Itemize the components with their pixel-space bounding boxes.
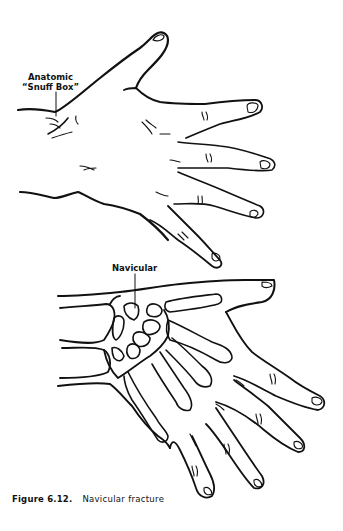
figure-caption-text: Navicular fracture — [82, 494, 164, 504]
dorsal-hand-drawing — [18, 32, 275, 267]
figure-number: Figure 6.12. — [12, 494, 72, 504]
navicular-label: Navicular — [112, 263, 157, 273]
skeleton-hand-drawing — [58, 274, 324, 498]
anatomic-snuff-box-label: Anatomic “Snuff Box” — [22, 72, 79, 92]
snuff-box-label-line1: Anatomic — [22, 72, 79, 82]
snuff-box-label-line2: “Snuff Box” — [22, 82, 79, 92]
figure-caption: Figure 6.12.Navicular fracture — [12, 494, 164, 504]
figure-page: Anatomic “Snuff Box” Navicular Figure 6.… — [0, 0, 343, 531]
